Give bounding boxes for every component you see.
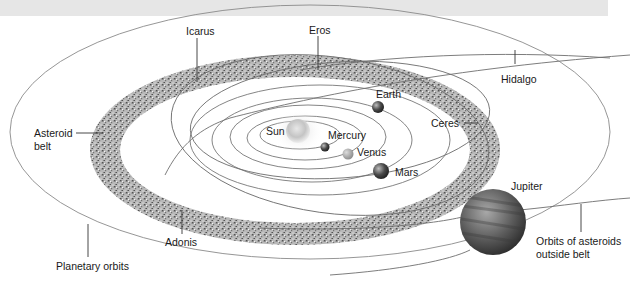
label-asteroid-belt-2: belt xyxy=(34,140,51,152)
sun xyxy=(286,119,310,143)
label-earth: Earth xyxy=(376,88,401,100)
label-outside-belt-1: Orbits of asteroids xyxy=(536,235,621,247)
label-icarus: Icarus xyxy=(186,25,215,37)
label-adonis: Adonis xyxy=(165,236,197,248)
label-sun: Sun xyxy=(266,125,285,137)
label-jupiter: Jupiter xyxy=(511,180,543,192)
label-outside-belt-2: outside belt xyxy=(536,248,590,260)
label-eros: Eros xyxy=(309,24,331,36)
label-ceres: Ceres xyxy=(431,117,459,129)
planet-mercury xyxy=(321,143,330,152)
planet-mars xyxy=(373,163,389,179)
label-asteroid-belt-1: Asteroid xyxy=(34,127,73,139)
label-venus: Venus xyxy=(357,146,386,158)
label-hidalgo: Hidalgo xyxy=(501,73,537,85)
planet-venus xyxy=(343,149,354,160)
label-mars: Mars xyxy=(395,166,418,178)
label-mercury: Mercury xyxy=(328,129,366,141)
planet-earth xyxy=(372,101,384,113)
label-planetary-orbits: Planetary orbits xyxy=(56,260,129,272)
